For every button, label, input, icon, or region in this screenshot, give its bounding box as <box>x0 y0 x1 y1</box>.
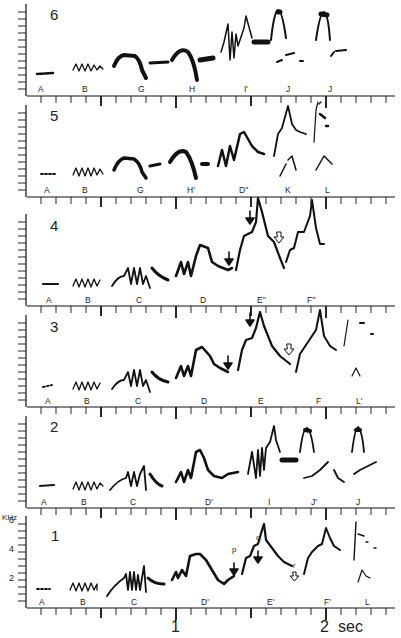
sonogram-graphics <box>0 0 401 638</box>
panel-1-trace <box>37 522 376 596</box>
syllable-label: G <box>138 84 145 94</box>
syllable-label: F' <box>324 597 331 607</box>
y-tick-label-2: 2 <box>9 573 14 583</box>
syllable-label: K <box>285 185 291 195</box>
panel-4-axes <box>18 214 395 318</box>
syllable-label: E <box>258 396 264 406</box>
syllable-label: L' <box>356 396 362 406</box>
x-axis-unit-label: sec <box>338 618 363 636</box>
panel-2-trace <box>40 426 376 490</box>
y-tick-label-6: 6 <box>9 515 14 525</box>
arrow-markers <box>224 211 262 575</box>
syllable-label: B <box>84 396 90 406</box>
syllable-label: H' <box>187 185 195 195</box>
panel-5-axes <box>18 105 395 209</box>
syllable-label: J <box>356 497 360 507</box>
sonogram-figure: 6 5 4 3 2 1 A B G H I' J J A B G H' D'' … <box>0 0 401 638</box>
panel-5-trace <box>41 102 332 178</box>
panel-number-6: 6 <box>50 6 58 23</box>
syllable-label: A <box>46 295 52 305</box>
syllable-label: J <box>286 84 290 94</box>
syllable-label: B <box>80 597 86 607</box>
syllable-label: A <box>44 185 50 195</box>
syllable-label: B <box>82 84 88 94</box>
syllable-label: B <box>85 295 91 305</box>
syllable-label: D <box>200 295 206 305</box>
syllable-label: D'' <box>239 185 248 195</box>
syllable-label: B <box>82 185 88 195</box>
panel-number-2: 2 <box>50 418 58 435</box>
syllable-label: D' <box>201 597 209 607</box>
panel-3-trace <box>43 310 373 392</box>
syllable-label: C <box>130 497 136 507</box>
annotation-r: r <box>293 562 295 569</box>
panel-6-axes <box>18 4 395 108</box>
syllable-label: J <box>328 84 332 94</box>
syllable-label: A <box>39 597 45 607</box>
syllable-label: J' <box>311 497 317 507</box>
syllable-label: D <box>201 396 207 406</box>
syllable-label: A <box>41 497 47 507</box>
syllable-label: A <box>38 84 44 94</box>
syllable-label: E' <box>267 597 274 607</box>
x-tick-label-1: 1 <box>171 618 180 636</box>
syllable-label: F <box>316 396 321 406</box>
annotation-q: q <box>256 533 260 542</box>
syllable-label: E'' <box>257 295 266 305</box>
panel-4-trace <box>43 198 324 288</box>
syllable-label: I' <box>244 84 248 94</box>
syllable-label: A <box>45 396 51 406</box>
annotation-p: p <box>232 545 236 554</box>
syllable-label: G <box>137 185 144 195</box>
syllable-label: L <box>325 185 330 195</box>
syllable-label: C <box>136 295 142 305</box>
syllable-label: C <box>131 597 137 607</box>
syllable-label: C <box>135 396 141 406</box>
syllable-label: D' <box>205 497 213 507</box>
x-tick-label-2: 2 <box>320 618 329 636</box>
panel-6-trace <box>37 10 346 80</box>
syllable-label: I <box>268 497 270 507</box>
panel-number-5: 5 <box>50 107 58 124</box>
panel-number-1: 1 <box>51 527 59 544</box>
syllable-label: F'' <box>307 295 315 305</box>
y-tick-label-4: 4 <box>9 544 14 554</box>
syllable-label: L <box>365 597 370 607</box>
panel-number-3: 3 <box>50 318 58 335</box>
panel-number-4: 4 <box>50 217 58 234</box>
syllable-label: H <box>189 84 195 94</box>
syllable-label: B <box>81 497 87 507</box>
